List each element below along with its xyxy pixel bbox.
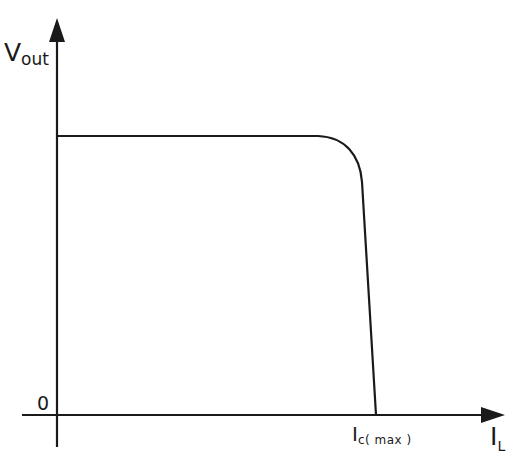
- origin-label: 0: [37, 394, 49, 413]
- y-axis-label-sub: out: [21, 49, 49, 69]
- y-axis-label-main: V: [4, 38, 21, 67]
- x-axis-label: IL: [490, 424, 505, 453]
- y-axis-label: Vout: [4, 40, 49, 68]
- characteristic-curve: [57, 136, 376, 415]
- x-axis-arrow-icon: [481, 407, 505, 423]
- vout-vs-il-diagram: [0, 0, 520, 460]
- y-axis-arrow-icon: [49, 18, 65, 42]
- x-tick-icmax-label: Ic( max ): [352, 424, 412, 446]
- x-tick-label-sub: c( max ): [358, 433, 412, 447]
- x-axis-label-sub: L: [497, 438, 505, 454]
